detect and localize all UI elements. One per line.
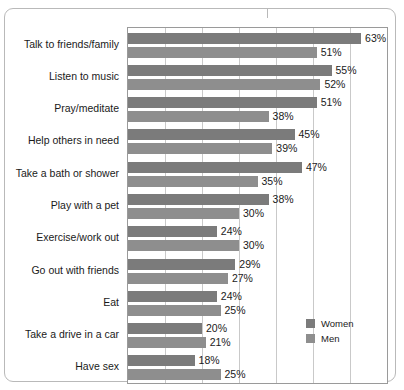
bar-value-label: 25%: [225, 305, 246, 316]
category-label: Pray/meditate: [5, 102, 119, 114]
bar-women: [128, 355, 195, 366]
bar-group: 38%30%: [128, 194, 387, 219]
bar-value-label: 51%: [321, 47, 342, 58]
bar-men: [128, 47, 317, 58]
bar-men: [128, 305, 221, 316]
bar-group: 63%51%: [128, 33, 387, 58]
bar-group: 29%27%: [128, 259, 387, 284]
plot-area: 63%51%55%52%51%38%45%39%47%35%38%30%24%3…: [127, 27, 388, 384]
bar-value-label: 27%: [232, 273, 253, 284]
bar-group: 51%38%: [128, 97, 387, 122]
bar-value-label: 24%: [221, 291, 242, 302]
bar-women: [128, 65, 332, 76]
legend-label: Men: [321, 333, 339, 344]
bar-men: [128, 143, 272, 154]
bar-group: 24%25%: [128, 291, 387, 316]
category-label: Help others in need: [5, 134, 119, 146]
bar-men: [128, 337, 206, 348]
bar-women: [128, 291, 217, 302]
category-label: Play with a pet: [5, 199, 119, 211]
legend-swatch: [306, 334, 315, 343]
bar-men: [128, 208, 239, 219]
bar-value-label: 39%: [276, 143, 297, 154]
category-label: Exercise/work out: [5, 231, 119, 243]
legend-label: Women: [321, 318, 354, 329]
legend-item: Men: [306, 333, 354, 344]
bar-value-label: 52%: [324, 79, 345, 90]
legend-swatch: [306, 319, 315, 328]
bar-value-label: 20%: [206, 323, 227, 334]
category-label: Listen to music: [5, 70, 119, 82]
bar-group: 47%35%: [128, 162, 387, 187]
card-top-tick: [267, 9, 268, 18]
bar-women: [128, 97, 317, 108]
bar-women: [128, 129, 295, 140]
bar-value-label: 18%: [199, 355, 220, 366]
category-label: Take a drive in a car: [5, 328, 119, 340]
bar-men: [128, 240, 239, 251]
bar-group: 18%25%: [128, 355, 387, 380]
bar-value-label: 24%: [221, 226, 242, 237]
bar-women: [128, 33, 361, 44]
bar-women: [128, 162, 302, 173]
bar-group: 45%39%: [128, 129, 387, 154]
bar-value-label: 51%: [321, 97, 342, 108]
chart-legend: WomenMen: [306, 318, 354, 348]
bar-value-label: 63%: [365, 33, 386, 44]
bar-group: 55%52%: [128, 65, 387, 90]
category-label: Eat: [5, 296, 119, 308]
bar-value-label: 45%: [299, 129, 320, 140]
bar-group: 24%30%: [128, 226, 387, 251]
bar-men: [128, 273, 228, 284]
legend-item: Women: [306, 318, 354, 329]
bar-value-label: 38%: [273, 111, 294, 122]
bar-value-label: 21%: [210, 337, 231, 348]
bar-women: [128, 194, 269, 205]
chart-card: Talk to friends/familyListen to musicPra…: [4, 8, 396, 382]
category-label: Have sex: [5, 360, 119, 372]
bar-value-label: 29%: [239, 259, 260, 270]
bar-men: [128, 369, 221, 380]
bar-men: [128, 79, 320, 90]
bar-value-label: 35%: [262, 176, 283, 187]
category-label: Talk to friends/family: [5, 38, 119, 50]
bar-value-label: 30%: [243, 240, 264, 251]
bar-women: [128, 226, 217, 237]
bar-women: [128, 323, 202, 334]
bar-women: [128, 259, 235, 270]
bar-value-label: 38%: [273, 194, 294, 205]
category-label: Take a bath or shower: [5, 167, 119, 179]
category-label: Go out with friends: [5, 264, 119, 276]
bar-men: [128, 111, 269, 122]
bar-men: [128, 176, 258, 187]
bar-value-label: 30%: [243, 208, 264, 219]
bar-value-label: 55%: [336, 65, 357, 76]
bar-value-label: 25%: [225, 369, 246, 380]
bar-value-label: 47%: [306, 162, 327, 173]
